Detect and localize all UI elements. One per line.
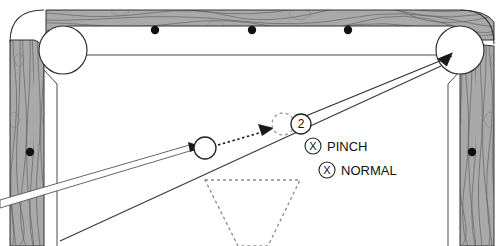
diamond-top-3 — [344, 26, 352, 34]
diamond-right-1 — [468, 148, 476, 156]
diamond-top-2 — [248, 26, 256, 34]
normal-marker-x: X — [323, 164, 331, 176]
normal-label: NORMAL — [341, 163, 397, 178]
top-right-pocket — [436, 26, 484, 74]
right-rail — [460, 44, 494, 246]
pinch-label: PINCH — [327, 139, 367, 154]
pinch-marker-x: X — [309, 140, 317, 152]
top-left-pocket — [39, 26, 87, 74]
pinch-marker-group: X PINCH — [305, 138, 367, 154]
normal-marker-group: X NORMAL — [319, 162, 397, 178]
left-rail — [10, 40, 44, 246]
pool-table-diagram: 2 X PINCH X NORMAL — [0, 0, 504, 246]
object-ball-number: 2 — [298, 117, 305, 131]
diamond-top-1 — [151, 26, 159, 34]
diamond-left-1 — [26, 148, 34, 156]
cue-ball — [194, 137, 216, 159]
